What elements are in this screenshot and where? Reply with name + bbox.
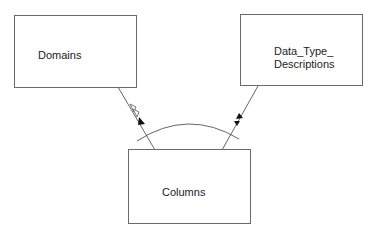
open-arrow-icon — [133, 109, 139, 117]
entity-columns[interactable]: Columns — [128, 149, 251, 224]
entity-columns-label: Columns — [162, 186, 205, 199]
relationship-line-domains — [118, 87, 155, 150]
filled-arrow-icon — [138, 117, 145, 125]
entity-data-type-label-line2: Descriptions — [274, 58, 335, 71]
constraint-arc — [137, 124, 239, 141]
entity-domains[interactable]: Domains — [14, 15, 137, 88]
filled-arrow-icon — [234, 121, 240, 126]
entity-data-type-descriptions[interactable]: Data_Type_ Descriptions — [240, 14, 363, 86]
entity-data-type-label-line1: Data_Type_ — [274, 45, 333, 58]
entity-domains-label: Domains — [38, 49, 81, 62]
